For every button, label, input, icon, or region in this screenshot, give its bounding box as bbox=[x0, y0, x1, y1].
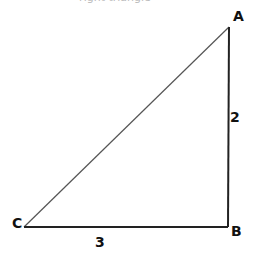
side-label-ab: 2 bbox=[230, 110, 240, 124]
hypotenuse-ca bbox=[24, 27, 229, 227]
vertex-label-a: A bbox=[233, 9, 244, 23]
side-label-cb: 3 bbox=[95, 235, 105, 249]
side-ab bbox=[228, 27, 229, 227]
vertex-label-b: B bbox=[231, 224, 242, 238]
vertex-label-c: C bbox=[12, 216, 22, 230]
triangle-diagram bbox=[0, 0, 255, 267]
